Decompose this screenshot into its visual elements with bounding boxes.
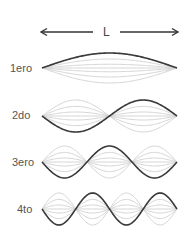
wave-mode-2 xyxy=(42,100,177,132)
wave-mode-4 xyxy=(42,193,177,225)
wave-mode-3 xyxy=(42,146,177,178)
mode-label-3: 3ero xyxy=(12,156,34,168)
ghost-wave xyxy=(42,68,177,72)
standing-waves-diagram: L 1ero 2do 3ero 4to xyxy=(0,0,191,236)
mode-label-2: 2do xyxy=(12,109,30,121)
wave-mode-1 xyxy=(42,53,177,83)
fundamental-wave xyxy=(42,53,177,68)
ghost-wave xyxy=(42,68,177,83)
length-label: L xyxy=(103,26,110,38)
mode-label-4: 4to xyxy=(17,203,32,215)
mode-label-1: 1ero xyxy=(10,62,32,74)
ghost-wave xyxy=(42,64,177,68)
wave-modes xyxy=(42,53,177,225)
